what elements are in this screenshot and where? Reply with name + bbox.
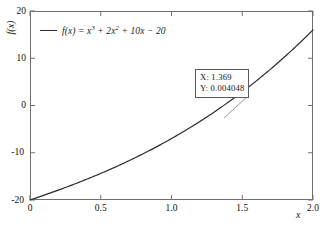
y-tick-label: 0 bbox=[0, 101, 26, 111]
legend-term-prefix: f(x) = x bbox=[62, 26, 91, 36]
figure-canvas: 20 10 0 -10 -20 0 0.5 1.0 1.5 2.0 f(x) x… bbox=[0, 0, 333, 226]
y-tick-label: -10 bbox=[0, 148, 24, 158]
legend-label: f(x) = x3 + 2x2 + 10x − 20 bbox=[62, 24, 166, 36]
y-tick-label: 10 bbox=[0, 54, 26, 64]
legend-term-mid1: + 2x bbox=[95, 26, 116, 36]
x-tick-label: 0 bbox=[10, 204, 50, 214]
legend-term-tail: 20 bbox=[153, 26, 165, 36]
x-tick-label: 1.0 bbox=[152, 204, 192, 214]
plot-area bbox=[30, 11, 313, 200]
x-tick-label: 1.5 bbox=[222, 204, 262, 214]
data-cursor-y-value: Y: 0.004048 bbox=[200, 83, 244, 94]
legend: f(x) = x3 + 2x2 + 10x − 20 bbox=[40, 24, 166, 36]
x-tick-label: 0.5 bbox=[81, 204, 121, 214]
data-cursor-x-value: X: 1.369 bbox=[200, 72, 244, 83]
x-axis-title: x bbox=[296, 209, 300, 220]
legend-term-mid2: + 10x bbox=[119, 26, 147, 36]
data-cursor-tooltip[interactable]: X: 1.369 Y: 0.004048 bbox=[195, 69, 249, 98]
y-axis-title: f(x) bbox=[5, 8, 16, 48]
legend-line-sample bbox=[40, 30, 57, 31]
